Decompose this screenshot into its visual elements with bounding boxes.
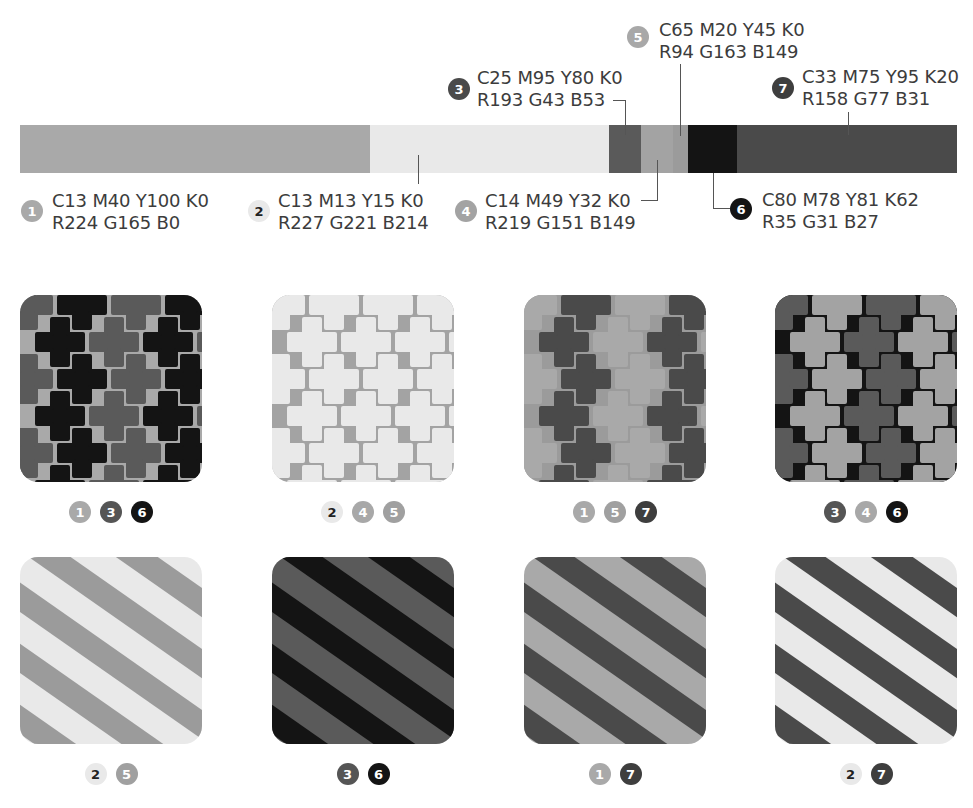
cmyk-value: C33 M75 Y95 K20 [802, 66, 959, 88]
number-badge: 4 [455, 200, 477, 222]
stripe-pattern-tile [20, 557, 202, 744]
color-badges: 157 [524, 501, 706, 523]
color-badges: 245 [272, 501, 454, 523]
cmyk-value: C14 M49 Y32 K0 [485, 190, 636, 212]
rgb-value: R35 G31 B27 [762, 211, 919, 233]
pattern-swatch-8: 27 [775, 557, 957, 785]
number-badge: 5 [383, 501, 405, 523]
stripe-pattern-tile [775, 557, 957, 744]
number-badge: 5 [627, 26, 649, 48]
number-badge: 4 [855, 501, 877, 523]
cmyk-value: C65 M20 Y45 K0 [659, 19, 804, 41]
number-badge: 7 [620, 763, 642, 785]
leader-line-5 [680, 64, 681, 136]
number-badge: 2 [840, 763, 862, 785]
number-badge: 7 [772, 77, 794, 99]
pattern-swatch-5: 25 [20, 557, 202, 785]
bar-segment-6 [688, 125, 737, 173]
bar-segment-7 [737, 125, 957, 173]
color-badges: 17 [524, 763, 706, 785]
color-badges: 27 [775, 763, 957, 785]
color-badges: 36 [272, 763, 454, 785]
number-badge: 6 [886, 501, 908, 523]
number-badge: 5 [604, 501, 626, 523]
rgb-value: R224 G165 B0 [52, 212, 209, 234]
cross-pattern-tile [775, 295, 957, 482]
leader-line-3-v [625, 100, 626, 135]
number-badge: 7 [871, 763, 893, 785]
number-badge: 1 [21, 200, 43, 222]
pattern-swatch-7: 17 [524, 557, 706, 785]
cross-pattern-tile [272, 295, 454, 482]
leader-line-2 [418, 155, 419, 184]
cross-pattern-tile [20, 295, 202, 482]
number-badge: 3 [100, 501, 122, 523]
number-badge: 2 [321, 501, 343, 523]
pattern-swatch-1: 136 [20, 295, 202, 523]
number-badge: 1 [589, 763, 611, 785]
stripe-pattern-tile [524, 557, 706, 744]
leader-line-4-h [641, 200, 657, 201]
number-badge: 2 [85, 763, 107, 785]
cross-pattern-tile [524, 295, 706, 482]
number-badge: 2 [248, 200, 270, 222]
bar-segment-1 [20, 125, 370, 173]
rgb-value: R193 G43 B53 [477, 89, 622, 111]
color-proportion-bar [20, 125, 957, 173]
bar-segment-2 [370, 125, 609, 173]
cmyk-value: C80 M78 Y81 K62 [762, 189, 919, 211]
number-badge: 6 [730, 198, 752, 220]
number-badge: 1 [573, 501, 595, 523]
cmyk-value: C13 M13 Y15 K0 [278, 190, 429, 212]
cmyk-value: C25 M95 Y80 K0 [477, 67, 622, 89]
rgb-value: R227 G221 B214 [278, 212, 429, 234]
number-badge: 3 [337, 763, 359, 785]
pattern-swatch-3: 157 [524, 295, 706, 523]
rgb-value: R219 G151 B149 [485, 212, 636, 234]
stripe-pattern-tile [272, 557, 454, 744]
leader-line-7 [848, 112, 849, 135]
number-badge: 3 [824, 501, 846, 523]
number-badge: 7 [635, 501, 657, 523]
rgb-value: R94 G163 B149 [659, 41, 804, 63]
leader-line-6-v [713, 173, 714, 209]
rgb-value: R158 G77 B31 [802, 88, 959, 110]
color-badges: 346 [775, 501, 957, 523]
pattern-swatch-4: 346 [775, 295, 957, 523]
number-badge: 4 [352, 501, 374, 523]
pattern-swatch-6: 36 [272, 557, 454, 785]
pattern-swatch-2: 245 [272, 295, 454, 523]
number-badge: 6 [131, 501, 153, 523]
number-badge: 3 [448, 78, 470, 100]
number-badge: 5 [116, 763, 138, 785]
color-badges: 25 [20, 763, 202, 785]
color-badges: 136 [20, 501, 202, 523]
leader-line-4-v [657, 160, 658, 201]
number-badge: 1 [69, 501, 91, 523]
leader-line-6-h [713, 208, 730, 209]
cmyk-value: C13 M40 Y100 K0 [52, 190, 209, 212]
number-badge: 6 [368, 763, 390, 785]
